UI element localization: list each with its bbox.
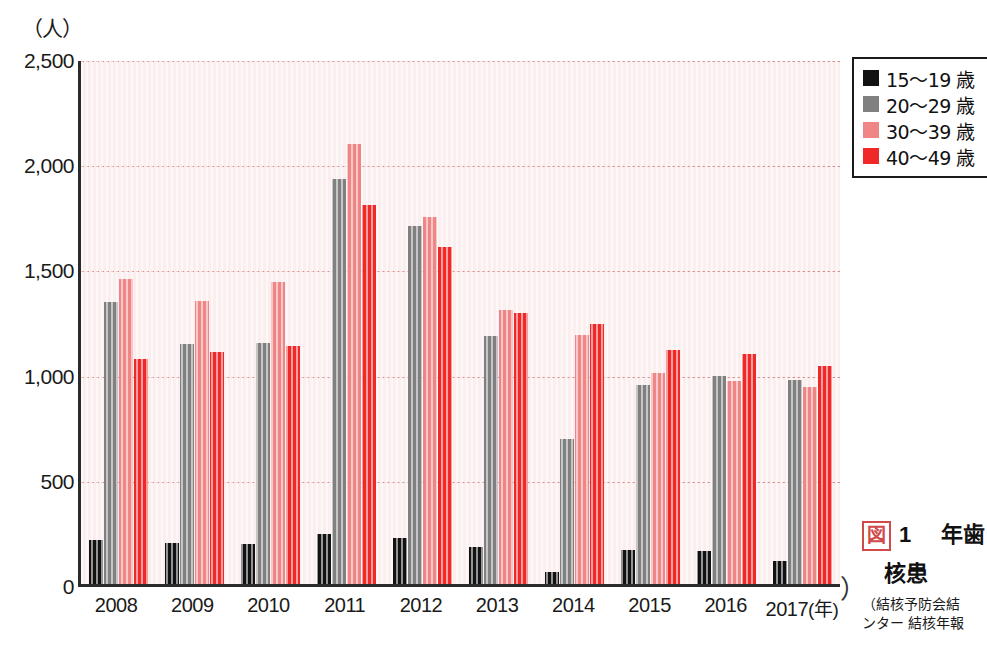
x-axis-tick-label: 2016: [688, 594, 764, 634]
y-axis-tick-label: 1,000: [0, 365, 74, 389]
bar: [104, 302, 118, 584]
bar-group: [688, 61, 764, 584]
y-axis-tick-label: 500: [0, 470, 74, 494]
bar: [590, 324, 604, 584]
bar: [393, 538, 407, 584]
bar-group: [81, 61, 157, 584]
bar: [347, 144, 361, 584]
bar: [788, 380, 802, 584]
y-axis-tick-label: 2,000: [0, 154, 74, 178]
figure-caption: 図 1 年歯 核患 （結核予防会結 ンター 結核年報: [862, 516, 987, 633]
bar-group: [764, 61, 840, 584]
bar: [241, 544, 255, 584]
x-axis-tick-label: 2014: [535, 594, 611, 634]
bar: [818, 366, 832, 584]
bar-group: [385, 61, 461, 584]
bar: [134, 359, 148, 584]
bar: [210, 352, 224, 584]
bar: [575, 335, 589, 584]
bar: [195, 301, 209, 584]
bar: [362, 205, 376, 584]
bar: [180, 344, 194, 584]
y-axis-tick-labels: 2,5002,0001,5001,0005000: [0, 61, 74, 587]
legend: 15〜19 歳20〜29 歳30〜39 歳40〜49 歳: [852, 57, 987, 178]
legend-label: 30〜39 歳: [886, 117, 975, 144]
x-axis-tick-label: 2012: [383, 594, 459, 634]
x-axis-tick-label: 2010: [230, 594, 306, 634]
caption-source-line2: ンター 結核年報: [862, 614, 987, 633]
bar: [317, 534, 331, 584]
bar: [484, 336, 498, 584]
bar-group: [612, 61, 688, 584]
x-axis-tick-label: 2013: [459, 594, 535, 634]
bar-groups: [81, 61, 840, 584]
y-axis-tick-label: 1,500: [0, 259, 74, 283]
caption-source-line1: （結核予防会結: [862, 595, 987, 614]
legend-swatch-icon: [863, 122, 879, 138]
bar: [621, 550, 635, 584]
figure-number: 1: [899, 522, 911, 548]
y-axis-tick-label: 2,500: [0, 49, 74, 73]
x-axis-tick-label: 2011: [307, 594, 383, 634]
legend-label: 40〜49 歳: [886, 143, 975, 170]
bar-group: [536, 61, 612, 584]
legend-item: 40〜49 歳: [863, 143, 987, 169]
y-axis-unit-label: （人）: [22, 12, 82, 42]
y-axis-tick-label: 0: [0, 575, 74, 599]
caption-source: （結核予防会結 ンター 結核年報: [862, 595, 987, 633]
bar: [666, 350, 680, 584]
legend-label: 15〜19 歳: [886, 65, 975, 92]
bar: [286, 346, 300, 584]
bar: [499, 310, 513, 584]
x-axis-tick-label: 2015: [611, 594, 687, 634]
bar: [697, 551, 711, 584]
x-axis-tick-label: 2009: [154, 594, 230, 634]
bar-group: [309, 61, 385, 584]
legend-item: 20〜29 歳: [863, 91, 987, 117]
bar: [636, 385, 650, 584]
legend-swatch-icon: [863, 96, 879, 112]
bar: [727, 381, 741, 584]
caption-title-line2: 核患: [884, 555, 987, 587]
bar-group: [233, 61, 309, 584]
bar: [332, 179, 346, 584]
legend-swatch-icon: [863, 148, 879, 164]
bar: [119, 279, 133, 584]
x-axis-unit-label: (年): [808, 599, 838, 620]
chart-page: （人） 2,5002,0001,5001,0005000 20082009201…: [0, 0, 987, 647]
legend-item: 30〜39 歳: [863, 117, 987, 143]
x-axis-tick-label: 2017(年): [764, 594, 840, 634]
legend-item: 15〜19 歳: [863, 65, 987, 91]
bar: [408, 226, 422, 584]
bar-group: [461, 61, 537, 584]
bar: [560, 439, 574, 584]
plot-area: [78, 61, 840, 587]
legend-swatch-icon: [863, 70, 879, 86]
bar: [651, 373, 665, 584]
figure-label: 図: [862, 521, 891, 551]
bar: [545, 572, 559, 584]
bar: [803, 387, 817, 584]
bar: [256, 343, 270, 584]
bar: [712, 376, 726, 584]
bar: [89, 540, 103, 584]
x-axis-tick-labels: 2008200920102011201220132014201520162017…: [78, 594, 840, 634]
caption-title-line1: 年歯: [941, 516, 985, 548]
bar: [423, 217, 437, 584]
caption-head: 図 1 年歯: [862, 516, 987, 551]
bar: [514, 313, 528, 584]
bar-group: [157, 61, 233, 584]
bar: [773, 561, 787, 584]
bar: [165, 543, 179, 584]
bar: [438, 247, 452, 584]
bar: [271, 282, 285, 584]
legend-label: 20〜29 歳: [886, 91, 975, 118]
bar: [469, 547, 483, 584]
bar: [742, 354, 756, 584]
x-axis-tick-label: 2008: [78, 594, 154, 634]
